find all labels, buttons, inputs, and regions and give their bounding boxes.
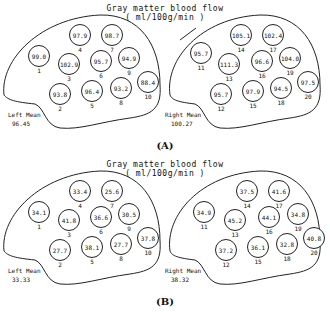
left-mean-label: Left Mean: [8, 111, 41, 119]
roi-1: 34.1: [28, 201, 50, 223]
roi-20: 97.5: [297, 71, 319, 93]
roi-1: 99.0: [28, 45, 50, 67]
roi-3-label: 3: [58, 75, 80, 82]
roi-13-label: 13: [218, 75, 240, 82]
roi-8-label: 8: [110, 255, 132, 262]
roi-2-label: 2: [49, 261, 71, 268]
roi-8: 27.7: [110, 233, 132, 255]
roi-6-label: 6: [90, 72, 112, 79]
roi-14-label: 14: [236, 202, 258, 209]
panel-a-label: (A): [0, 140, 330, 151]
roi-20-label: 20: [297, 93, 319, 100]
roi-17: 41.6: [268, 180, 290, 202]
roi-14: 37.5: [236, 180, 258, 202]
roi-13-label: 13: [224, 231, 246, 238]
left-mean-value: 96.45: [12, 120, 30, 128]
roi-9-label: 9: [118, 225, 140, 232]
roi-5: 38.1: [81, 236, 103, 258]
roi-9: 94.9: [118, 47, 140, 69]
roi-18: 94.5: [270, 77, 292, 99]
left-mean-value: 33.33: [12, 276, 30, 284]
roi-11-label: 11: [190, 64, 212, 71]
roi-13: 111.3: [218, 53, 240, 75]
roi-14-label: 14: [230, 46, 252, 53]
roi-15-label: 15: [242, 102, 264, 109]
roi-12-label: 12: [210, 105, 232, 112]
roi-6: 95.7: [90, 50, 112, 72]
roi-1-label: 1: [28, 67, 50, 74]
roi-3: 41.8: [58, 209, 80, 231]
roi-6-label: 6: [90, 228, 112, 235]
roi-17: 102.4: [262, 24, 284, 46]
roi-1-label: 1: [28, 223, 50, 230]
roi-4-label: 4: [69, 202, 91, 209]
roi-12: 95.7: [210, 83, 232, 105]
roi-2: 27.7: [49, 239, 71, 261]
roi-7: 98.7: [101, 24, 123, 46]
roi-16: 44.1: [258, 206, 280, 228]
right-mean-label: Right Mean: [165, 267, 201, 275]
roi-11: 95.7: [190, 42, 212, 64]
roi-10: 88.4: [137, 71, 159, 93]
roi-15-label: 15: [247, 258, 269, 265]
roi-7: 25.6: [101, 180, 123, 202]
roi-10-label: 10: [137, 249, 159, 256]
roi-19-label: 19: [279, 69, 301, 76]
roi-10: 37.8: [137, 227, 159, 249]
roi-5: 96.4: [81, 80, 103, 102]
roi-18: 32.8: [276, 233, 298, 255]
roi-9: 30.5: [118, 203, 140, 225]
right-mean-value: 38.32: [171, 276, 189, 284]
roi-20: 40.8: [303, 227, 325, 249]
roi-11-label: 11: [193, 223, 215, 230]
roi-16-label: 16: [251, 72, 273, 79]
roi-2: 93.8: [49, 83, 71, 105]
roi-8: 93.2: [110, 77, 132, 99]
roi-3: 102.9: [58, 53, 80, 75]
left-mean-label: Left Mean: [8, 267, 41, 275]
roi-16-label: 16: [258, 228, 280, 235]
roi-18-label: 18: [270, 99, 292, 106]
panel-b-label: (B): [0, 296, 330, 307]
roi-13: 45.2: [224, 209, 246, 231]
roi-14: 105.1: [230, 24, 252, 46]
roi-15: 97.9: [242, 80, 264, 102]
roi-16: 96.6: [251, 50, 273, 72]
roi-5-label: 5: [81, 258, 103, 265]
roi-19: 34.8: [287, 203, 309, 225]
roi-4: 33.4: [69, 180, 91, 202]
panel-b: Gray matter blood flow ( ml/100g/min ) 3…: [0, 156, 330, 312]
roi-15: 36.1: [247, 236, 269, 258]
roi-12: 37.2: [215, 239, 237, 261]
roi-9-label: 9: [118, 69, 140, 76]
roi-11: 34.9: [193, 201, 215, 223]
right-mean-value: 100.27: [171, 120, 193, 128]
roi-6: 36.6: [90, 206, 112, 228]
right-mean-label: Right Mean: [165, 111, 201, 119]
roi-20-label: 20: [303, 249, 325, 256]
roi-4: 97.9: [69, 24, 91, 46]
roi-19: 104.0: [279, 47, 301, 69]
roi-3-label: 3: [58, 231, 80, 238]
roi-8-label: 8: [110, 99, 132, 106]
roi-2-label: 2: [49, 105, 71, 112]
roi-10-label: 10: [137, 93, 159, 100]
roi-18-label: 18: [276, 255, 298, 262]
roi-4-label: 4: [69, 46, 91, 53]
roi-12-label: 12: [215, 261, 237, 268]
panel-a: Gray matter blood flow ( ml/100g/min ) 9…: [0, 0, 330, 156]
roi-5-label: 5: [81, 102, 103, 109]
